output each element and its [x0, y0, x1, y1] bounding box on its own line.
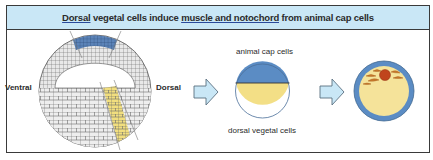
blastula-diagram	[38, 31, 153, 150]
right-arrow-icon	[194, 79, 218, 105]
ventral-label: Ventral	[5, 83, 32, 92]
diagram-graphics	[0, 0, 433, 160]
notochord-tissue	[380, 70, 391, 81]
animal-cap-cells-label: animal cap cells	[236, 47, 293, 56]
right-arrow-icon	[320, 79, 344, 105]
dorsal-vegetal-cells-label: dorsal vegetal cells	[228, 126, 296, 135]
explant-sandwich	[236, 61, 290, 118]
induced-explant	[354, 61, 414, 121]
dorsal-label: Dorsal	[156, 83, 181, 92]
